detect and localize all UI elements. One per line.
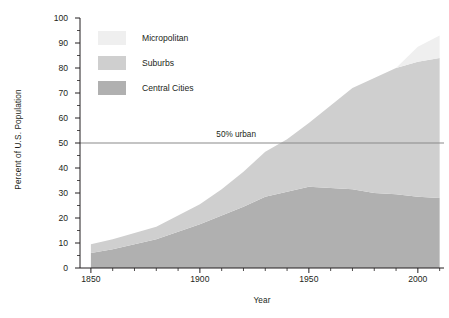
chart-legend: Micropolitan Suburbs Central Cities: [98, 28, 194, 103]
legend-swatch-suburbs: [98, 56, 126, 70]
x-tick-label: 2000: [388, 275, 448, 284]
legend-label-micropolitan: Micropolitan: [142, 33, 188, 43]
x-tick-label: 1850: [61, 275, 121, 284]
legend-item-micropolitan[interactable]: Micropolitan: [98, 28, 194, 47]
legend-item-central-cities[interactable]: Central Cities: [98, 78, 194, 97]
legend-label-central-cities: Central Cities: [142, 83, 194, 93]
fifty-percent-urban-label: 50% urban: [216, 130, 256, 139]
legend-swatch-micropolitan: [98, 31, 126, 45]
x-tick-labels: 1850190019502000: [0, 0, 449, 318]
legend-item-suburbs[interactable]: Suburbs: [98, 53, 194, 72]
x-tick-label: 1900: [170, 275, 230, 284]
legend-swatch-central-cities: [98, 81, 126, 95]
chart-figure: Percent of U.S. Population Year 01020304…: [0, 0, 449, 318]
legend-label-suburbs: Suburbs: [142, 58, 174, 68]
x-tick-label: 1950: [279, 275, 339, 284]
